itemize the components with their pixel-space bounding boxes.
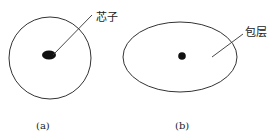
panel-b-graphic	[123, 22, 243, 92]
cladding-label: 包层	[245, 23, 267, 39]
panel-a-graphic	[9, 15, 92, 99]
core-ellipse	[42, 51, 56, 60]
core-dot	[178, 52, 186, 60]
caption-b: (b)	[175, 120, 189, 131]
caption-a: (a)	[36, 120, 50, 131]
fiber-cross-section-diagram	[0, 0, 272, 137]
core-label: 芯子	[96, 8, 118, 24]
core-leader-line	[53, 15, 92, 55]
